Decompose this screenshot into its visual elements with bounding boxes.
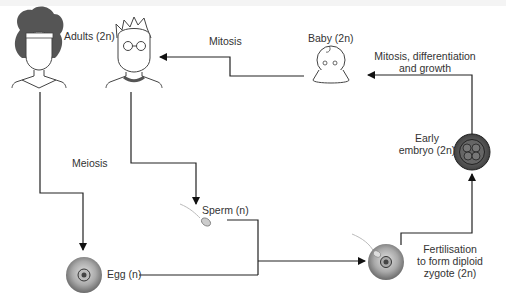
early-embryo-label: Early embryo (2n) [397,132,457,156]
woman-adult-icon [12,7,66,88]
embryo-to-baby-arrow [368,75,472,134]
fertilisation-line1: Fertilisation [405,243,495,255]
baby-label: Baby (2n) [308,32,354,44]
mitosis-growth-line1: Mitosis, differentiation [370,50,480,62]
zygote-to-embryo-arrow [401,174,472,245]
sperm-label: Sperm (n) [202,204,249,216]
zygote-icon [352,234,404,280]
meiosis-man-to-sperm-arrow [131,92,196,204]
baby-icon [313,46,349,83]
meiosis-label: Meiosis [72,157,108,169]
fertilisation-label: Fertilisation to form diploid zygote (2n… [405,243,495,279]
early-embryo-icon [454,134,490,170]
mitosis-growth-line2: and growth [370,62,480,74]
man-adult-icon [106,17,162,88]
sperm-to-zygote-line [227,220,258,275]
egg-label: Egg (n) [107,268,141,280]
mitosis-growth-label: Mitosis, differentiation and growth [370,50,480,74]
meiosis-woman-to-egg-arrow [40,92,83,250]
early-embryo-line2: embryo (2n) [397,144,457,156]
fertilisation-line3: zygote (2n) [405,267,495,279]
early-embryo-line1: Early [397,132,457,144]
egg-cell-icon [66,257,102,293]
mitosis-label: Mitosis [209,35,242,47]
fertilisation-line2: to form diploid [405,255,495,267]
adults-label: Adults (2n) [64,30,115,42]
baby-to-adult-mitosis-arrow [160,57,304,76]
